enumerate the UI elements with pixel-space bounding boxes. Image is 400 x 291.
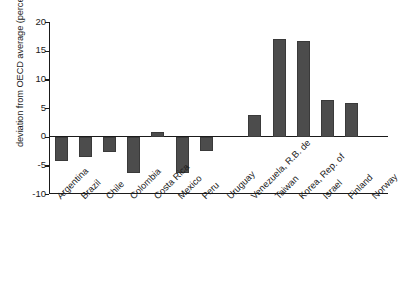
zero-baseline <box>49 136 388 137</box>
bar <box>321 100 334 137</box>
y-tick-label: -5 <box>38 159 46 171</box>
y-tick-label: -10 <box>32 188 46 200</box>
y-axis-line <box>49 22 50 194</box>
bar <box>79 137 92 158</box>
bar <box>297 41 310 137</box>
bar <box>273 39 286 137</box>
bar <box>103 137 116 152</box>
y-tick-label: 20 <box>35 16 46 28</box>
bar <box>55 137 68 162</box>
y-tick-label: 5 <box>41 102 46 114</box>
bar <box>127 137 140 174</box>
y-tick-label: 15 <box>35 44 46 56</box>
bar <box>200 137 213 151</box>
bar <box>248 115 261 137</box>
y-tick-label: 0 <box>41 130 46 142</box>
bar <box>151 132 164 137</box>
y-tick-label: 10 <box>35 73 46 85</box>
y-axis-title: deviation from OECD average (percent) <box>15 0 25 157</box>
bar <box>345 103 358 136</box>
x-axis-labels: ArgentinaBrazilChileColombiaCosta RicaMe… <box>49 194 394 291</box>
